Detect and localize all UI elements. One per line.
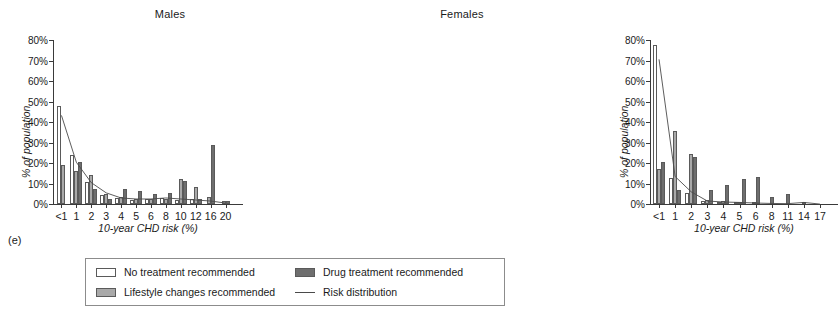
y-tick-mark xyxy=(49,163,53,164)
x-tick-label: 10 xyxy=(175,210,187,222)
x-tick-label: <1 xyxy=(55,210,67,222)
x-tick-label: 6 xyxy=(753,210,759,222)
y-tick-mark xyxy=(49,102,53,103)
y-tick-mark xyxy=(49,204,53,205)
x-tick-label: 3 xyxy=(704,210,710,222)
y-tick-mark xyxy=(646,184,650,185)
y-tick-mark xyxy=(646,122,650,123)
x-tick-label: <1 xyxy=(653,210,665,222)
x-tick-label: 3 xyxy=(103,210,109,222)
x-tick-label: 11 xyxy=(782,210,793,222)
x-tick-label: 14 xyxy=(798,210,810,222)
y-tick-mark xyxy=(49,81,53,82)
x-tick-label: 12 xyxy=(190,210,202,222)
x-tick-mark xyxy=(691,204,692,208)
legend-label-no-treatment: No treatment recommended xyxy=(124,266,255,278)
x-tick-mark xyxy=(136,204,137,208)
x-tick-mark xyxy=(675,204,676,208)
legend-label-risk-distribution: Risk distribution xyxy=(323,286,397,298)
x-tick-label: 6 xyxy=(148,210,154,222)
x-tick-mark xyxy=(91,204,92,208)
x-tick-label: 5 xyxy=(737,210,743,222)
y-tick-mark xyxy=(646,102,650,103)
y-tick-mark xyxy=(49,61,53,62)
x-tick-mark xyxy=(121,204,122,208)
x-tick-label: 4 xyxy=(118,210,124,222)
x-tick-label: 8 xyxy=(163,210,169,222)
x-axis-label-females: 10-year CHD risk (%) xyxy=(650,222,838,234)
y-tick-mark xyxy=(49,122,53,123)
line-marker-icon xyxy=(295,292,315,293)
y-tick-mark xyxy=(646,81,650,82)
plot-area-females: <11234568111417 0%10%20%30%40%50%60%70%8… xyxy=(650,40,828,205)
x-tick-mark xyxy=(820,204,821,208)
x-tick-label: 1 xyxy=(672,210,678,222)
y-tick-mark xyxy=(646,40,650,41)
x-tick-mark xyxy=(166,204,167,208)
x-tick-label: 4 xyxy=(721,210,727,222)
y-tick-mark xyxy=(646,143,650,144)
x-tick-mark xyxy=(707,204,708,208)
x-axis-line-females xyxy=(650,204,838,205)
y-tick-mark xyxy=(646,204,650,205)
x-tick-mark xyxy=(151,204,152,208)
chart-title-males: Males xyxy=(0,8,320,20)
legend-label-drug: Drug treatment recommended xyxy=(323,266,463,278)
y-tick-mark xyxy=(646,163,650,164)
x-tick-mark xyxy=(76,204,77,208)
x-tick-mark xyxy=(226,204,227,208)
legend-item-no-treatment: No treatment recommended xyxy=(96,266,295,278)
x-tick-mark xyxy=(740,204,741,208)
x-tick-label: 8 xyxy=(769,210,775,222)
x-axis-label-males: 10-year CHD risk (%) xyxy=(53,222,243,234)
swatch-dark-gray-icon xyxy=(295,268,315,277)
x-tick-mark xyxy=(804,204,805,208)
y-tick-mark xyxy=(49,143,53,144)
legend-label-lifestyle: Lifestyle changes recommended xyxy=(124,286,275,298)
x-tick-mark xyxy=(61,204,62,208)
risk-distribution-line-males xyxy=(54,40,233,204)
risk-distribution-line-females xyxy=(651,40,828,204)
x-tick-label: 2 xyxy=(88,210,94,222)
y-tick-mark xyxy=(646,61,650,62)
legend-item-risk-distribution: Risk distribution xyxy=(295,286,494,298)
x-tick-label: 2 xyxy=(688,210,694,222)
x-tick-label: 1 xyxy=(73,210,79,222)
x-tick-mark xyxy=(756,204,757,208)
swatch-white-icon xyxy=(96,268,116,277)
x-tick-mark xyxy=(723,204,724,208)
x-tick-mark xyxy=(196,204,197,208)
x-tick-label: 16 xyxy=(205,210,217,222)
legend-item-drug: Drug treatment recommended xyxy=(295,266,494,278)
x-tick-mark xyxy=(106,204,107,208)
x-tick-label: 20 xyxy=(220,210,232,222)
chart-panel-males: Males % of population <1123456810121620 … xyxy=(0,0,300,250)
y-tick-mark xyxy=(49,40,53,41)
legend: No treatment recommended Drug treatment … xyxy=(85,258,505,306)
x-tick-mark xyxy=(659,204,660,208)
x-tick-label: 17 xyxy=(814,210,826,222)
x-tick-mark xyxy=(181,204,182,208)
x-axis-line-males xyxy=(53,204,243,205)
x-tick-mark xyxy=(772,204,773,208)
plot-area-males: <1123456810121620 0%10%20%30%40%50%60%70… xyxy=(53,40,233,205)
legend-item-lifestyle: Lifestyle changes recommended xyxy=(96,286,295,298)
x-tick-label: 5 xyxy=(133,210,139,222)
y-tick-mark xyxy=(49,184,53,185)
x-tick-mark xyxy=(211,204,212,208)
chart-panel-females: Females % of population <11234568111417 … xyxy=(300,0,596,250)
chart-title-females: Females xyxy=(300,8,610,20)
x-tick-mark xyxy=(788,204,789,208)
swatch-light-gray-icon xyxy=(96,288,116,297)
panel-label: (e) xyxy=(8,234,21,246)
